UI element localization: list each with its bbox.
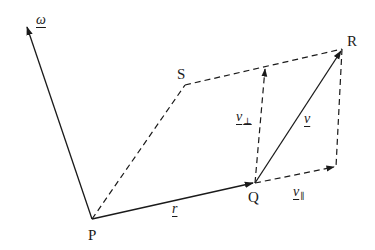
- omega-label: ω: [36, 13, 46, 27]
- v-perp-symbol: v: [236, 109, 242, 124]
- v-symbol: v: [304, 111, 310, 126]
- dashed-line-ps: [92, 85, 185, 219]
- omega-symbol: ω: [36, 12, 46, 27]
- v-parallel-label: v∥: [293, 185, 304, 199]
- dashed-line-r-corner: [336, 49, 342, 167]
- omega-vector-line: [27, 27, 92, 219]
- point-label-p: P: [88, 228, 96, 243]
- v-perp-subscript: ⊥: [243, 116, 251, 126]
- point-label-r: R: [347, 34, 357, 49]
- v-label: v: [304, 112, 310, 126]
- v-vector-line: [255, 51, 341, 183]
- v-perp-label: v⊥: [236, 110, 252, 124]
- r-label: r: [172, 202, 177, 216]
- v-parallel-subscript: ∥: [300, 191, 304, 201]
- point-label-s: S: [177, 67, 185, 82]
- r-symbol: r: [172, 201, 177, 216]
- v-perp-vector-line: [255, 69, 265, 183]
- v-parallel-symbol: v: [293, 184, 299, 199]
- v-parallel-vector-line: [255, 167, 334, 183]
- vector-diagram: P Q R S ω r v v⊥ v∥: [0, 0, 375, 250]
- diagram-lines: [0, 0, 375, 250]
- point-label-q: Q: [248, 190, 259, 205]
